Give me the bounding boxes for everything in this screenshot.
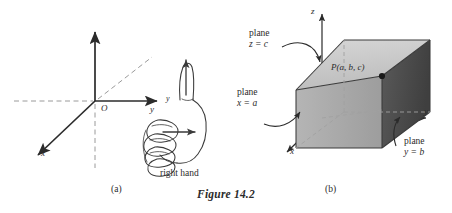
plane-z-equals-c-label: plane z = c bbox=[249, 28, 270, 50]
plane-y-equals-b-label: plane y = b bbox=[404, 136, 425, 158]
panel-a-axis-label-x: x bbox=[41, 148, 45, 158]
axis-x-line bbox=[38, 101, 95, 155]
arrow-to-plane-z-equals-c bbox=[282, 43, 320, 62]
plane-y-equals-b-line2: y = b bbox=[404, 147, 425, 158]
panel-a-axis-label-y: y bbox=[150, 104, 154, 114]
right-hand-caption: right hand bbox=[160, 168, 199, 179]
plane-y-equals-b-line1: plane bbox=[404, 136, 425, 147]
hand-axis-label-y: y bbox=[166, 94, 170, 103]
figure-artwork bbox=[0, 0, 452, 213]
plane-z-equals-c-line1: plane bbox=[249, 28, 270, 39]
box-axis-label-x: x bbox=[290, 146, 294, 156]
plane-x-equals-a-line1: plane bbox=[237, 87, 258, 98]
point-marker bbox=[379, 73, 385, 79]
right-hand-illustration bbox=[143, 60, 206, 176]
plane-z-equals-c-line2: z = c bbox=[249, 39, 270, 50]
axis-negative-x-dashed bbox=[98, 57, 152, 99]
plane-x-equals-a-label: plane x = a bbox=[237, 87, 258, 109]
box-axis-label-y: y bbox=[424, 106, 428, 116]
figure-14-2: O y x y right hand (a) z y x plane z = c… bbox=[0, 0, 452, 213]
panel-b-box bbox=[264, 14, 430, 152]
origin-label: O bbox=[101, 103, 108, 113]
arrow-to-plane-x-equals-a bbox=[264, 112, 300, 126]
figure-caption: Figure 14.2 bbox=[0, 188, 452, 200]
plane-x-equals-a-line2: x = a bbox=[237, 98, 258, 109]
box-axis-label-z: z bbox=[311, 6, 315, 16]
point-label: P(a, b, c) bbox=[331, 62, 365, 72]
panel-a-axes bbox=[14, 32, 157, 168]
